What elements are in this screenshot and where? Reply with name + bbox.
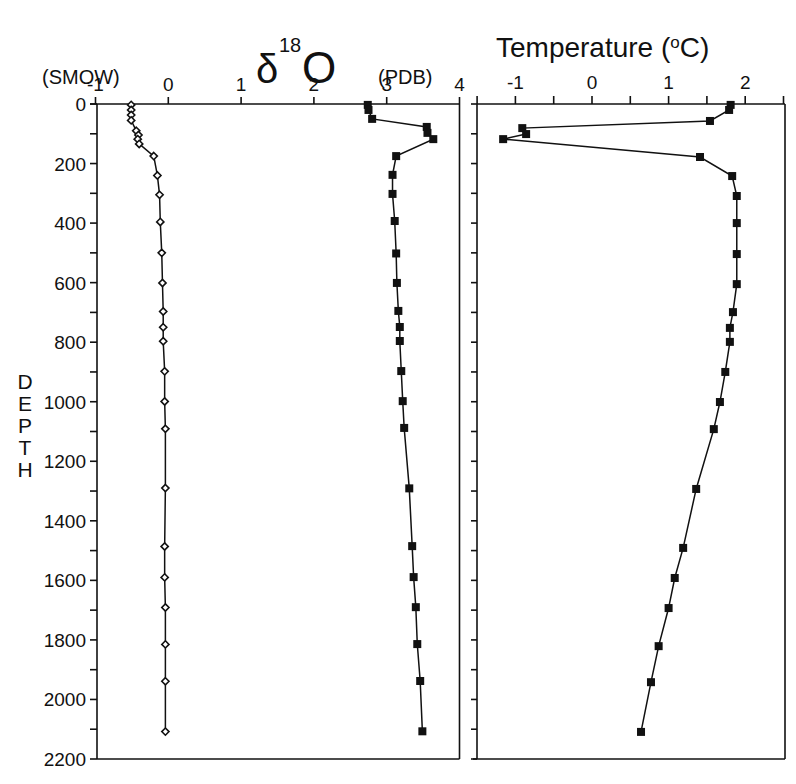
y-tick-label: 1800 bbox=[44, 630, 86, 651]
isotope-superscript: 18 bbox=[279, 34, 301, 56]
data-point-smow bbox=[162, 641, 169, 648]
data-point-pdb bbox=[392, 152, 400, 160]
data-point-temperature bbox=[522, 130, 530, 138]
data-point-pdb bbox=[396, 337, 404, 345]
data-point-smow bbox=[156, 191, 163, 198]
data-point-smow bbox=[160, 338, 167, 345]
y-tick-label: 1600 bbox=[44, 570, 86, 591]
data-point-smow bbox=[161, 368, 168, 375]
data-point-smow bbox=[162, 425, 169, 432]
data-point-pdb bbox=[389, 171, 397, 179]
depth-label-letter: D bbox=[17, 370, 32, 393]
x-tick-label: -1 bbox=[87, 74, 104, 95]
y-tick-label: 800 bbox=[54, 332, 86, 353]
data-point-smow bbox=[160, 324, 167, 331]
x-tick-label: 1 bbox=[236, 74, 247, 95]
data-point-smow bbox=[159, 279, 166, 286]
data-point-pdb bbox=[410, 573, 418, 581]
temperature-title-degree: o bbox=[670, 33, 679, 52]
data-point-temperature bbox=[692, 485, 700, 493]
data-point-smow bbox=[161, 574, 168, 581]
data-point-pdb bbox=[429, 135, 437, 143]
temperature-panel: -1012 bbox=[471, 72, 785, 759]
data-point-temperature bbox=[716, 398, 724, 406]
data-point-temperature bbox=[671, 574, 679, 582]
data-point-smow bbox=[161, 398, 168, 405]
x-tick-label: 0 bbox=[163, 74, 174, 95]
x-tick-label: -1 bbox=[507, 72, 524, 93]
data-point-temperature bbox=[725, 106, 733, 114]
x-tick-label: 4 bbox=[454, 74, 465, 95]
x-tick-label: 0 bbox=[587, 72, 598, 93]
data-point-temperature bbox=[665, 604, 673, 612]
delta-symbol: δ bbox=[256, 47, 278, 91]
depth-label-letter: E bbox=[18, 392, 32, 415]
data-point-smow bbox=[162, 678, 169, 685]
data-point-smow bbox=[160, 308, 167, 315]
data-point-temperature bbox=[655, 642, 663, 650]
data-point-pdb bbox=[400, 424, 408, 432]
depth-label-letter: H bbox=[17, 458, 32, 481]
data-point-temperature bbox=[696, 153, 704, 161]
depth-label-letter: P bbox=[18, 414, 32, 437]
series-line-smow bbox=[131, 105, 165, 732]
x-tick-label: 1 bbox=[663, 72, 674, 93]
data-point-pdb bbox=[412, 603, 420, 611]
y-tick-label: 1400 bbox=[44, 511, 86, 532]
y-tick-label: 1200 bbox=[44, 451, 86, 472]
data-point-temperature bbox=[679, 544, 687, 552]
data-point-temperature bbox=[729, 308, 737, 316]
data-point-temperature bbox=[726, 324, 734, 332]
data-point-smow bbox=[162, 484, 169, 491]
data-point-pdb bbox=[405, 484, 413, 492]
y-tick-label: 400 bbox=[54, 213, 86, 234]
data-point-temperature bbox=[728, 172, 736, 180]
data-point-smow bbox=[162, 728, 169, 735]
y-tick-label: 200 bbox=[54, 154, 86, 175]
data-point-pdb bbox=[393, 279, 401, 287]
data-point-temperature bbox=[710, 425, 718, 433]
data-point-temperature bbox=[733, 219, 741, 227]
data-point-smow bbox=[154, 172, 161, 179]
data-point-pdb bbox=[397, 367, 405, 375]
y-tick-label: 1000 bbox=[44, 392, 86, 413]
data-point-pdb bbox=[408, 542, 416, 550]
data-point-pdb bbox=[392, 249, 400, 257]
data-point-temperature bbox=[733, 280, 741, 288]
data-point-temperature bbox=[499, 135, 507, 143]
data-point-pdb bbox=[396, 323, 404, 331]
temperature-title-end: C) bbox=[680, 32, 710, 63]
x-tick-label: 3 bbox=[381, 74, 392, 95]
y-tick-label: 0 bbox=[75, 94, 86, 115]
data-point-pdb bbox=[418, 727, 426, 735]
data-point-temperature bbox=[706, 117, 714, 125]
data-point-temperature bbox=[647, 678, 655, 686]
chart-figure: (SMOW) δ 18 O (PDB) Temperature (oC) DEP… bbox=[0, 0, 796, 784]
y-tick-label: 2200 bbox=[44, 749, 86, 770]
data-point-pdb bbox=[391, 217, 399, 225]
oxygen-isotope-panel: -101234020040060080010001200140016001800… bbox=[44, 74, 465, 770]
data-point-pdb bbox=[389, 190, 397, 198]
data-point-smow bbox=[158, 249, 165, 256]
y-tick-label: 2000 bbox=[44, 689, 86, 710]
data-point-temperature bbox=[721, 368, 729, 376]
depth-label-letter: T bbox=[19, 436, 32, 459]
y-tick-label: 600 bbox=[54, 273, 86, 294]
x-tick-label: 2 bbox=[309, 74, 320, 95]
data-point-pdb bbox=[416, 677, 424, 685]
depth-axis-label: DEPTH bbox=[17, 370, 32, 481]
data-point-temperature bbox=[726, 338, 734, 346]
series-line-temperature bbox=[503, 105, 737, 732]
x-tick-label: 2 bbox=[740, 72, 751, 93]
data-point-pdb bbox=[365, 106, 373, 114]
data-point-smow bbox=[128, 117, 135, 124]
data-point-temperature bbox=[733, 250, 741, 258]
data-point-pdb bbox=[368, 115, 376, 123]
data-point-pdb bbox=[413, 640, 421, 648]
temperature-title: Temperature (oC) bbox=[496, 32, 709, 63]
series-line-pdb bbox=[368, 105, 434, 731]
data-point-smow bbox=[157, 218, 164, 225]
data-point-pdb bbox=[399, 397, 407, 405]
smow-subtitle: (SMOW) bbox=[42, 66, 120, 88]
data-point-smow bbox=[162, 604, 169, 611]
